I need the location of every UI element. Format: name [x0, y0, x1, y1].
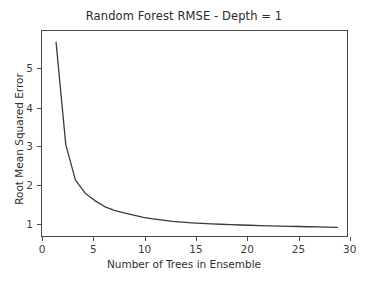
x-tick-mark — [196, 237, 197, 241]
y-tick-label: 2 — [26, 179, 33, 191]
x-tick-label: 15 — [189, 243, 202, 255]
y-axis-label: Root Mean Squared Error — [13, 39, 25, 239]
plot-canvas — [42, 31, 347, 236]
y-tick-label: 1 — [26, 218, 33, 230]
y-tick-label: 4 — [26, 102, 33, 114]
x-tick-label: 30 — [343, 243, 356, 255]
x-tick-mark — [247, 237, 248, 241]
x-tick-label: 0 — [39, 243, 46, 255]
plot-area — [41, 30, 348, 237]
y-tick-label: 5 — [26, 62, 33, 74]
x-tick-label: 10 — [138, 243, 151, 255]
rmse-curve — [56, 42, 337, 227]
chart-title: Random Forest RMSE - Depth = 1 — [0, 9, 368, 23]
y-tick-label: 3 — [26, 140, 33, 152]
x-tick-mark — [350, 237, 351, 241]
x-tick-mark — [42, 237, 43, 241]
x-tick-mark — [299, 237, 300, 241]
x-tick-label: 20 — [241, 243, 254, 255]
chart-figure: Random Forest RMSE - Depth = 1 5 4 3 2 1… — [0, 0, 368, 282]
x-tick-mark — [93, 237, 94, 241]
x-axis-label: Number of Trees in Ensemble — [0, 258, 368, 270]
x-tick-label: 5 — [90, 243, 97, 255]
x-tick-label: 25 — [292, 243, 305, 255]
x-tick-mark — [145, 237, 146, 241]
